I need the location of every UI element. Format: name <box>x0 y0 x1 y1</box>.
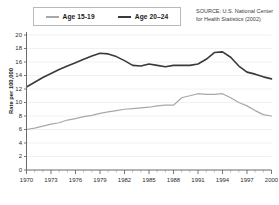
plot-area: 02468101214161820 1970197319761979198219… <box>0 0 279 205</box>
series-line-age-15-19 <box>27 94 272 130</box>
x-tick-label: 1982 <box>118 177 132 183</box>
series-line-age-20-24 <box>27 52 272 87</box>
y-tick-label: 2 <box>19 153 23 159</box>
y-tick-label: 20 <box>15 32 22 38</box>
y-tick-label: 6 <box>19 126 23 132</box>
x-tick-label: 2000 <box>265 177 279 183</box>
chart-figure: Age 15-19 Age 20–24 SOURCE: U.S. Nationa… <box>0 0 279 205</box>
data-series-group <box>27 52 272 130</box>
y-tick-label: 4 <box>19 140 23 146</box>
grid-lines <box>27 35 272 157</box>
y-tick-label: 0 <box>19 167 23 173</box>
x-axis-ticks: 1970197319761979198219851988199119941997… <box>20 170 279 183</box>
x-tick-label: 1976 <box>69 177 83 183</box>
x-tick-label: 1988 <box>167 177 181 183</box>
y-tick-label: 16 <box>15 59 22 65</box>
y-tick-label: 14 <box>15 72 22 78</box>
y-tick-label: 8 <box>19 113 23 119</box>
x-tick-label: 1979 <box>93 177 107 183</box>
x-tick-label: 1973 <box>44 177 58 183</box>
x-tick-label: 1991 <box>191 177 205 183</box>
x-tick-label: 1970 <box>20 177 34 183</box>
x-tick-label: 1994 <box>216 177 230 183</box>
chart-svg: 02468101214161820 1970197319761979198219… <box>0 0 279 205</box>
y-axis-ticks: 02468101214161820 <box>15 32 26 173</box>
y-tick-label: 12 <box>15 86 22 92</box>
y-tick-label: 18 <box>15 45 22 51</box>
y-tick-label: 10 <box>15 99 22 105</box>
x-tick-label: 1985 <box>142 177 156 183</box>
x-tick-label: 1997 <box>240 177 254 183</box>
